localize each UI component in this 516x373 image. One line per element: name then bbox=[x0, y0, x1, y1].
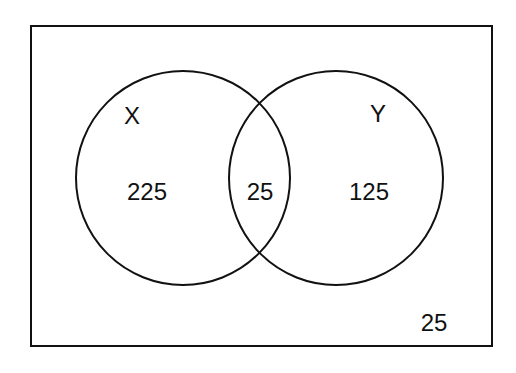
venn-diagram: X Y 225 25 125 25 bbox=[0, 0, 516, 373]
x-only-value: 225 bbox=[127, 178, 167, 205]
y-only-value: 125 bbox=[349, 178, 389, 205]
intersection-value: 25 bbox=[247, 178, 274, 205]
set-y-label: Y bbox=[370, 100, 386, 127]
outside-value: 25 bbox=[421, 309, 448, 336]
set-x-label: X bbox=[124, 102, 140, 129]
